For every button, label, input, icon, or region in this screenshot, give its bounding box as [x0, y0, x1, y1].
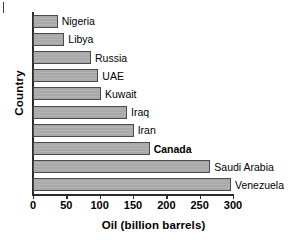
bar-uae	[33, 69, 98, 82]
bar-canada	[33, 142, 150, 155]
bar-russia	[33, 51, 91, 64]
bar-label-venezuela: Venezuela	[235, 180, 284, 191]
bar-iraq	[33, 106, 127, 119]
bar-libya	[33, 33, 64, 46]
bar-saudi-arabia	[33, 160, 210, 173]
bar-label-kuwait: Kuwait	[105, 89, 137, 100]
bar-label-iraq: Iraq	[131, 107, 149, 118]
x-tick-label: 50	[60, 200, 72, 211]
bar-chart: Country NigeriaLibyaRussiaUAEKuwaitIraqI…	[0, 0, 307, 240]
x-axis-title: Oil (billion barrels)	[0, 219, 307, 231]
x-tick-label: 150	[124, 200, 142, 211]
bar-label-nigeria: Nigeria	[62, 16, 95, 27]
bar-row: Russia	[33, 51, 233, 64]
bar-row: Libya	[33, 33, 233, 46]
bar-row: Kuwait	[33, 87, 233, 100]
bar-label-uae: UAE	[102, 70, 124, 81]
bar-label-russia: Russia	[95, 52, 127, 63]
bar-row: Canada	[33, 142, 233, 155]
bar-row: Saudi Arabia	[33, 160, 233, 173]
y-axis-title: Country	[13, 53, 25, 133]
bar-kuwait	[33, 87, 101, 100]
bar-row: Nigeria	[33, 15, 233, 28]
bar-venezuela	[33, 178, 231, 191]
plot-area: NigeriaLibyaRussiaUAEKuwaitIraqIranCanad…	[33, 12, 233, 194]
x-tick-label: 200	[157, 200, 175, 211]
bar-row: UAE	[33, 69, 233, 82]
scan-corner-mark	[3, 2, 4, 13]
bar-nigeria	[33, 15, 58, 28]
bar-label-iran: Iran	[138, 125, 156, 136]
x-tick-label: 100	[90, 200, 108, 211]
bar-label-libya: Libya	[68, 34, 93, 45]
x-tick-label: 0	[30, 200, 36, 211]
x-tick-label: 250	[190, 200, 208, 211]
bar-row: Venezuela	[33, 178, 233, 191]
x-tick-label: 300	[224, 200, 242, 211]
bar-row: Iran	[33, 124, 233, 137]
bar-iran	[33, 124, 134, 137]
bar-label-saudi-arabia: Saudi Arabia	[214, 161, 274, 172]
bar-label-canada: Canada	[154, 143, 192, 154]
bar-row: Iraq	[33, 106, 233, 119]
